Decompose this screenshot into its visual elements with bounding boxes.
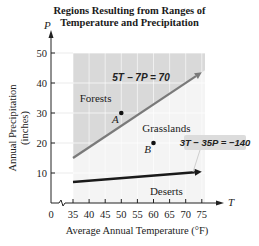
x-axis-title: Average Annual Temperature (°F) — [66, 225, 209, 237]
region-label-deserts: Deserts — [150, 185, 183, 197]
y-axis-title-line-1: Annual Precipitation — [7, 84, 18, 172]
point-a — [119, 111, 124, 116]
x-tick-label: 60 — [148, 209, 159, 220]
point-b — [151, 141, 156, 146]
x-origin-label: 0 — [48, 209, 53, 220]
x-axis-variable-label: T — [228, 196, 235, 208]
x-tick-label: 35 — [68, 209, 79, 220]
x-axis-arrow-icon — [216, 201, 224, 206]
equation-label-1: 5T − 7P = 70 — [112, 72, 170, 83]
point-label-b: B — [144, 143, 151, 155]
y-tick-label: 10 — [37, 168, 48, 179]
y-tick-label: 50 — [37, 48, 48, 59]
x-tick-label: 45 — [100, 209, 111, 220]
point-label-a: A — [111, 113, 119, 125]
x-tick-label: 55 — [132, 209, 143, 220]
x-axis-break-icon — [59, 200, 65, 206]
chart-canvas: PT35404550556065707501020304050Average A… — [0, 0, 259, 246]
x-tick-label: 75 — [197, 209, 208, 220]
y-axis-variable-label: P — [43, 19, 51, 31]
x-tick-label: 40 — [84, 209, 95, 220]
region-label-grasslands: Grasslands — [142, 122, 190, 134]
equation-label-2: 3T − 35P = −140 — [180, 137, 251, 148]
y-axis-arrow-icon — [49, 30, 54, 38]
region-label-forests: Forests — [80, 92, 112, 104]
y-tick-label: 30 — [37, 108, 48, 119]
y-tick-label: 40 — [37, 78, 48, 89]
x-tick-label: 65 — [164, 209, 175, 220]
y-axis-title-line-2: (inches) — [19, 111, 31, 145]
x-tick-label: 50 — [116, 209, 127, 220]
y-tick-label: 20 — [37, 138, 48, 149]
x-tick-label: 70 — [180, 209, 191, 220]
